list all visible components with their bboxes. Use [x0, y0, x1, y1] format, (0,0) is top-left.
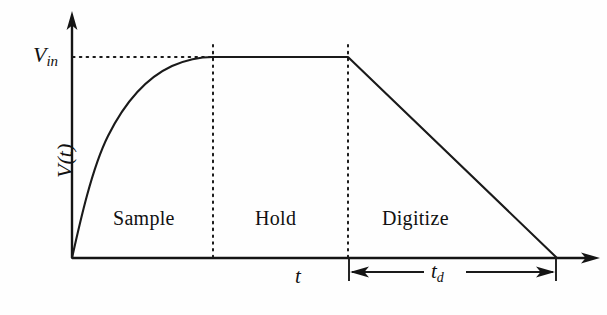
region-label-digitize: Digitize	[382, 207, 449, 230]
td-subscript: d	[437, 270, 444, 285]
y-axis-label: V(t)	[52, 144, 78, 178]
vin-subscript: in	[46, 53, 58, 69]
region-label-hold: Hold	[255, 207, 296, 230]
figure-container: Vin V(t) Sample Hold Digitize t td	[0, 0, 607, 315]
vin-main-symbol: V	[33, 42, 46, 67]
region-label-sample: Sample	[113, 207, 175, 230]
waveform-plot	[0, 0, 607, 315]
td-duration-label: td	[431, 259, 444, 286]
x-axis-label: t	[295, 264, 301, 289]
vin-axis-label: Vin	[33, 42, 58, 70]
